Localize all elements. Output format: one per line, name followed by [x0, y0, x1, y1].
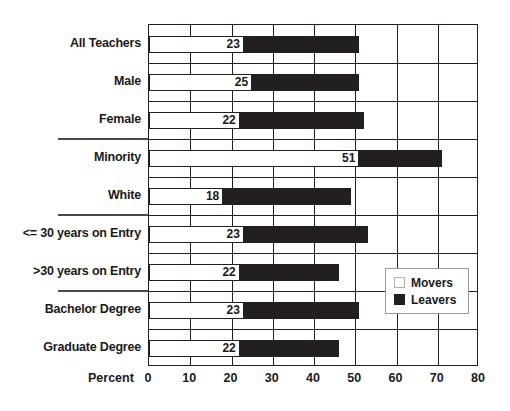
- category-label: <= 30 years on Entry: [23, 227, 141, 240]
- category-label: White: [108, 189, 141, 202]
- bar-segment-leavers: [240, 264, 339, 281]
- x-tick-label: 50: [347, 372, 361, 385]
- bar-value-label: 23: [149, 228, 240, 240]
- x-tick-label: 60: [389, 372, 403, 385]
- white-square-icon: [394, 277, 405, 288]
- gridline-horizontal: [149, 329, 477, 330]
- category-label: Graduate Degree: [43, 341, 141, 354]
- legend-item-movers: Movers: [394, 274, 468, 291]
- bar-segment-leavers: [223, 188, 351, 205]
- category-label: >30 years on Entry: [33, 265, 141, 278]
- category-label: All Teachers: [70, 37, 141, 50]
- group-separator: [58, 290, 148, 292]
- group-separator: [58, 214, 148, 216]
- gridline-horizontal: [149, 253, 477, 254]
- legend-label-movers: Movers: [411, 277, 453, 289]
- x-tick-label: 30: [265, 372, 279, 385]
- category-label: Female: [99, 113, 141, 126]
- bar-value-label: 25: [149, 76, 248, 88]
- black-square-icon: [394, 294, 405, 305]
- x-tick-label: 10: [182, 372, 196, 385]
- bar-value-label: 22: [149, 114, 236, 126]
- bar-value-label: 18: [149, 190, 219, 202]
- category-label: Minority: [94, 151, 141, 164]
- x-tick-label: 40: [306, 372, 320, 385]
- bar-segment-leavers: [359, 150, 442, 167]
- bar-segment-leavers: [240, 340, 339, 357]
- gridline-horizontal: [149, 139, 477, 140]
- gridline-horizontal: [149, 177, 477, 178]
- bar-segment-leavers: [244, 302, 360, 319]
- legend-item-leavers: Leavers: [394, 291, 468, 308]
- bar-value-label: 22: [149, 266, 236, 278]
- bar-segment-leavers: [244, 36, 360, 53]
- legend: Movers Leavers: [385, 268, 469, 314]
- x-axis-title: Percent: [88, 372, 134, 385]
- bar-value-label: 51: [149, 152, 355, 164]
- bar-segment-leavers: [240, 112, 364, 129]
- category-label: Bachelor Degree: [45, 303, 141, 316]
- bar-value-label: 23: [149, 304, 240, 316]
- legend-label-leavers: Leavers: [411, 294, 456, 306]
- plot-area: 232522511823222322: [148, 24, 478, 366]
- group-separator: [58, 138, 148, 140]
- gridline-horizontal: [149, 101, 477, 102]
- bar-segment-leavers: [244, 226, 368, 243]
- category-label: Male: [114, 75, 141, 88]
- x-tick-label: 70: [430, 372, 444, 385]
- bar-chart: 232522511823222322 Percent 0102030405060…: [0, 0, 510, 411]
- bar-value-label: 22: [149, 342, 236, 354]
- x-axis: Percent 01020304050607080: [0, 366, 510, 396]
- bar-value-label: 23: [149, 38, 240, 50]
- bar-segment-leavers: [252, 74, 359, 91]
- x-tick-label: 20: [224, 372, 238, 385]
- x-tick-label: 0: [145, 372, 152, 385]
- x-tick-label: 80: [471, 372, 485, 385]
- gridline-horizontal: [149, 63, 477, 64]
- gridline-horizontal: [149, 215, 477, 216]
